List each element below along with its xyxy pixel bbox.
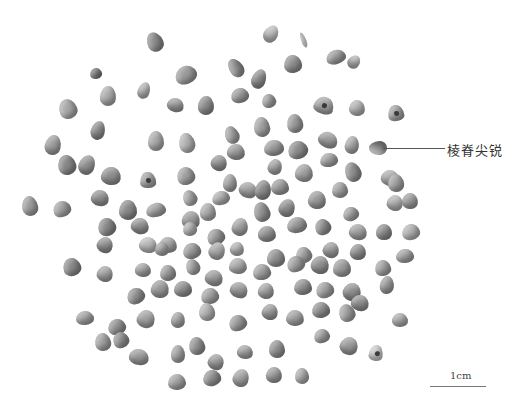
- seed: [294, 279, 313, 296]
- seed: [286, 138, 311, 162]
- seed: [265, 366, 283, 384]
- seed: [252, 200, 273, 224]
- seed: [184, 257, 203, 277]
- seed: [257, 282, 276, 301]
- seed: [230, 86, 251, 104]
- seed: [149, 278, 170, 299]
- seed: [119, 200, 137, 220]
- seed: [253, 179, 272, 201]
- seed: [229, 241, 245, 257]
- seed: [124, 285, 147, 307]
- seed: [177, 131, 197, 154]
- seed: [271, 179, 290, 196]
- seed-apex-mark: [374, 351, 380, 357]
- seed: [222, 124, 242, 146]
- seed: [148, 131, 164, 151]
- seed: [100, 166, 123, 187]
- seed: [374, 259, 393, 278]
- seed: [269, 340, 286, 359]
- seed: [400, 222, 421, 242]
- seed: [341, 205, 361, 223]
- seed: [180, 188, 199, 208]
- buckwheat-seed-photo: 棱脊尖锐 1cm: [0, 0, 517, 409]
- seed: [175, 165, 197, 187]
- seed: [174, 281, 192, 297]
- seed: [368, 344, 384, 362]
- seed-apex-mark: [146, 178, 151, 183]
- seed: [276, 197, 297, 220]
- seed: [401, 192, 419, 210]
- seed: [347, 222, 368, 242]
- seed: [135, 308, 158, 331]
- seed: [286, 215, 309, 235]
- seed-apex-mark: [321, 102, 327, 108]
- seed: [319, 152, 339, 168]
- seed: [331, 181, 348, 198]
- seed: [333, 259, 351, 277]
- seed: [203, 268, 225, 288]
- seed: [61, 256, 84, 279]
- seed: [316, 129, 341, 152]
- seed: [236, 344, 254, 361]
- seed: [312, 94, 336, 116]
- seed-apex-mark: [394, 111, 400, 117]
- seed: [51, 198, 74, 220]
- seed: [226, 143, 246, 161]
- seed: [56, 96, 80, 121]
- seed: [298, 32, 308, 49]
- seed: [94, 234, 115, 255]
- seed: [312, 327, 331, 345]
- seed: [56, 153, 79, 177]
- seed: [307, 190, 327, 210]
- seed: [283, 54, 303, 74]
- seed: [260, 23, 281, 46]
- seed: [230, 216, 250, 238]
- seed: [224, 56, 247, 80]
- seed: [345, 53, 363, 71]
- seed: [324, 47, 347, 66]
- seed: [395, 248, 414, 264]
- seed: [253, 116, 272, 138]
- seed: [99, 86, 116, 107]
- seed: [387, 173, 405, 193]
- seed: [223, 174, 238, 193]
- seed: [263, 139, 285, 157]
- seed: [76, 153, 98, 178]
- seed: [43, 133, 63, 156]
- seed: [170, 311, 186, 328]
- seed: [200, 203, 216, 221]
- seed: [198, 95, 215, 115]
- seed: [342, 160, 364, 184]
- seed: [75, 310, 94, 326]
- seed: [172, 62, 199, 87]
- seed: [134, 262, 151, 277]
- seed: [171, 345, 185, 363]
- seed: [266, 248, 285, 267]
- seed: [89, 188, 110, 208]
- scale-bar: [430, 386, 486, 387]
- seed: [165, 96, 185, 114]
- seed: [294, 163, 314, 183]
- seed: [312, 216, 333, 237]
- seed: [135, 80, 152, 100]
- seed: [95, 215, 118, 238]
- scale-bar-label: 1cm: [450, 370, 471, 381]
- seed: [198, 302, 216, 322]
- seed: [266, 157, 284, 177]
- seed: [392, 313, 408, 328]
- seed: [127, 347, 150, 367]
- seed: [20, 195, 39, 217]
- seed: [379, 275, 395, 295]
- seed: [145, 201, 167, 219]
- seed: [229, 258, 248, 275]
- seed: [187, 335, 207, 356]
- seed: [227, 312, 249, 333]
- seed: [95, 264, 115, 284]
- seed: [258, 226, 277, 243]
- seed: [285, 112, 304, 134]
- seed: [260, 92, 278, 110]
- seed: [314, 280, 336, 300]
- seed: [201, 368, 223, 389]
- seed: [249, 67, 269, 91]
- seed: [337, 334, 360, 357]
